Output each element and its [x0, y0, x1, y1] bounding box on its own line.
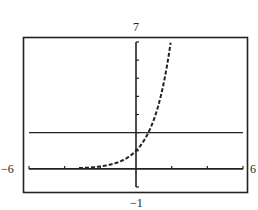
axes [29, 42, 243, 187]
graph-window [0, 0, 258, 210]
exponential-curve-series [79, 43, 171, 168]
